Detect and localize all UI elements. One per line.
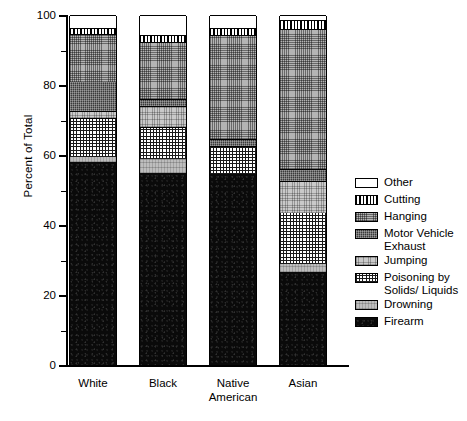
y-tick-label: 100 <box>16 9 56 21</box>
segment-divider <box>280 15 326 16</box>
legend-label: Motor VehicleExhaust <box>384 227 454 253</box>
legend-item-drowning[interactable]: Drowning <box>355 298 467 314</box>
legend-label: Hanging <box>384 210 427 223</box>
legend-item-firearm[interactable]: Firearm <box>355 315 467 331</box>
segment-divider <box>70 15 116 16</box>
segment-hanging[interactable] <box>210 35 256 139</box>
legend-label: Jumping <box>384 254 427 267</box>
segment-poisoning-by-solids-liquids[interactable] <box>210 146 256 174</box>
stacked-bar-chart: Percent of Total 020406080100 WhiteBlack… <box>0 0 467 421</box>
legend-label: Poisoning bySolids/ Liquids <box>384 271 458 297</box>
y-tick-major <box>59 85 66 87</box>
legend-swatch <box>355 195 378 205</box>
legend-item-motor-vehicle-exhaust[interactable]: Motor VehicleExhaust <box>355 227 467 253</box>
segment-jumping[interactable] <box>140 106 186 127</box>
y-tick-label: 80 <box>16 79 56 91</box>
segment-hanging[interactable] <box>70 34 116 81</box>
legend-item-jumping[interactable]: Jumping <box>355 254 467 270</box>
y-tick-label: 20 <box>16 289 56 301</box>
y-tick-major <box>59 15 66 17</box>
segment-poisoning-by-solids-liquids[interactable] <box>280 213 326 264</box>
x-tick-label-line: American <box>188 391 278 405</box>
segment-motor-vehicle-exhaust[interactable] <box>210 139 256 146</box>
legend-item-cutting[interactable]: Cutting <box>355 193 467 209</box>
segment-motor-vehicle-exhaust[interactable] <box>280 169 326 181</box>
segment-divider <box>140 15 186 16</box>
segment-drowning[interactable] <box>140 159 186 173</box>
plot-area <box>66 16 349 366</box>
bar-white[interactable] <box>69 16 117 366</box>
segment-firearm[interactable] <box>210 174 256 365</box>
legend-swatch <box>355 229 378 239</box>
legend-swatch <box>355 300 378 310</box>
segment-cutting[interactable] <box>140 35 186 42</box>
legend-label: Firearm <box>384 315 424 328</box>
y-tick-label: 0 <box>16 359 56 371</box>
x-tick-label: Asian <box>258 377 348 391</box>
legend-swatch <box>355 273 378 283</box>
segment-poisoning-by-solids-liquids[interactable] <box>140 127 186 159</box>
legend-swatch <box>355 317 378 327</box>
legend-label-line: Poisoning by <box>384 271 458 284</box>
legend-label-line: Motor Vehicle <box>384 227 454 240</box>
bar-asian[interactable] <box>279 16 327 366</box>
segment-other[interactable] <box>140 15 186 35</box>
y-tick-label: 60 <box>16 149 56 161</box>
legend-item-poisoning-by-solids-liquids[interactable]: Poisoning bySolids/ Liquids <box>355 271 467 297</box>
legend-swatch <box>355 178 378 188</box>
segment-divider <box>210 15 256 16</box>
segment-motor-vehicle-exhaust[interactable] <box>70 82 116 112</box>
segment-other[interactable] <box>70 15 116 28</box>
segment-motor-vehicle-exhaust[interactable] <box>140 99 186 106</box>
segment-poisoning-by-solids-liquids[interactable] <box>70 118 116 157</box>
y-tick-major <box>59 365 66 367</box>
segment-firearm[interactable] <box>70 162 116 365</box>
bar-native-american[interactable] <box>209 16 257 366</box>
segment-cutting[interactable] <box>70 28 116 34</box>
segment-cutting[interactable] <box>280 20 326 29</box>
legend-label: Cutting <box>384 193 420 206</box>
segment-cutting[interactable] <box>210 28 256 35</box>
y-tick-major <box>59 295 66 297</box>
chart-legend: OtherCuttingHangingMotor VehicleExhaustJ… <box>355 176 467 332</box>
segment-hanging[interactable] <box>280 29 326 169</box>
bar-black[interactable] <box>139 16 187 366</box>
y-tick-major <box>59 225 66 227</box>
legend-item-hanging[interactable]: Hanging <box>355 210 467 226</box>
y-tick-major <box>59 155 66 157</box>
legend-swatch <box>355 212 378 222</box>
segment-drowning[interactable] <box>70 157 116 162</box>
segment-drowning[interactable] <box>280 264 326 273</box>
segment-hanging[interactable] <box>140 42 186 99</box>
segment-jumping[interactable] <box>280 181 326 213</box>
legend-item-other[interactable]: Other <box>355 176 467 192</box>
segment-firearm[interactable] <box>140 173 186 366</box>
segment-jumping[interactable] <box>70 111 116 118</box>
segment-other[interactable] <box>210 15 256 28</box>
y-tick-label: 40 <box>16 219 56 231</box>
legend-label: Other <box>384 176 413 189</box>
legend-label-line: Solids/ Liquids <box>384 284 458 297</box>
legend-label: Drowning <box>384 298 433 311</box>
segment-firearm[interactable] <box>280 272 326 365</box>
segment-other[interactable] <box>280 15 326 20</box>
legend-label-line: Exhaust <box>384 240 454 253</box>
legend-swatch <box>355 256 378 266</box>
x-tick-label-line: Asian <box>258 377 348 391</box>
